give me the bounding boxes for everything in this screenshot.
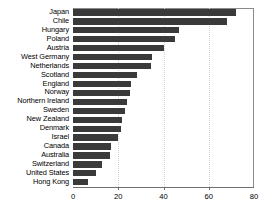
bar-chart: JapanChileHungaryPolandAustriaWest Germa… <box>0 0 269 211</box>
bar-row <box>73 97 254 106</box>
bar-row <box>73 178 254 187</box>
category-label-column: JapanChileHungaryPolandAustriaWest Germa… <box>0 8 71 187</box>
bar-row <box>73 160 254 169</box>
bar-row <box>73 106 254 115</box>
bar <box>73 90 130 96</box>
bar <box>73 179 88 185</box>
bar <box>73 36 175 42</box>
x-axis-tick <box>209 187 210 190</box>
bar-series <box>73 8 254 187</box>
bar <box>73 170 96 176</box>
plot-area <box>73 8 254 187</box>
x-axis-tick-label: 40 <box>159 192 167 201</box>
bar <box>73 81 131 87</box>
bar-row <box>73 115 254 124</box>
bar-row <box>73 71 254 80</box>
bar <box>73 27 179 33</box>
bar <box>73 54 152 60</box>
x-axis-tick-label: 20 <box>114 192 122 201</box>
bar <box>73 126 121 132</box>
bar-row <box>73 17 254 26</box>
bar-row <box>73 62 254 71</box>
bar <box>73 152 110 158</box>
category-label: Hong Kong <box>0 178 71 187</box>
bar-row <box>73 142 254 151</box>
bar <box>73 9 236 15</box>
bar-row <box>73 88 254 97</box>
bar <box>73 99 127 105</box>
x-axis-tick-label: 0 <box>71 192 75 201</box>
bar-row <box>73 169 254 178</box>
bar <box>73 161 102 167</box>
x-axis-tick-label: 80 <box>250 192 258 201</box>
bar-row <box>73 124 254 133</box>
bar-row <box>73 80 254 89</box>
bar-row <box>73 8 254 17</box>
bar-row <box>73 35 254 44</box>
bar-row <box>73 44 254 53</box>
bar <box>73 117 122 123</box>
bar-row <box>73 26 254 35</box>
bar-row <box>73 133 254 142</box>
bar <box>73 108 125 114</box>
bar <box>73 143 111 149</box>
x-axis-tick <box>164 187 165 190</box>
bar <box>73 18 227 24</box>
bar <box>73 63 151 69</box>
bar <box>73 45 164 51</box>
bar-row <box>73 151 254 160</box>
bar <box>73 72 137 78</box>
bar-row <box>73 53 254 62</box>
x-axis-tick-label: 60 <box>205 192 213 201</box>
x-axis-tick <box>118 187 119 190</box>
bar <box>73 134 118 140</box>
